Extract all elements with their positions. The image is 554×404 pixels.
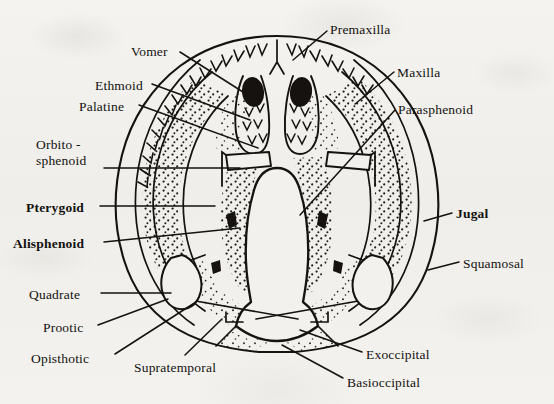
leader-squamosal [428,262,459,270]
label-premaxilla: Premaxilla [330,23,390,37]
label-pterygoid: Pterygoid [26,201,84,215]
label-palatine: Palatine [79,100,124,114]
leader-prootic [98,299,168,325]
foramen-left-lower [211,260,221,274]
vomerine-teeth-group [243,104,311,144]
label-quadrate: Quadrate [29,288,80,302]
nares-group [240,76,314,109]
leader-opisthotic [115,302,196,354]
label-exoccipital: Exoccipital [366,348,430,362]
label-opisthotic: Opisthotic [31,352,89,366]
label-maxilla: Maxilla [397,66,440,80]
label-orbitosphenoid: Orbito - sphenoid [36,137,126,169]
label-supratemporal: Supratemporal [134,361,216,375]
label-parasphenoid: Parasphenoid [398,103,473,117]
foramen-right-lower [333,260,343,274]
label-squamosal: Squamosal [463,257,524,271]
suture-midline-snout [270,40,284,74]
label-alisphenoid: Alisphenoid [13,237,84,251]
label-basioccipital: Basioccipital [347,376,420,390]
label-jugal: Jugal [456,207,489,221]
label-ethmoid: Ethmoid [95,79,143,93]
label-vomer: Vomer [131,45,168,59]
leader-supratemporal [185,319,222,355]
figure-page: Vomer Premaxilla Ethmoid Maxilla Palatin… [0,0,554,404]
label-prootic: Prootic [43,321,83,335]
